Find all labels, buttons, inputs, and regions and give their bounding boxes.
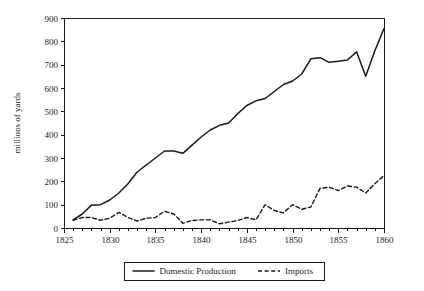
chart-container: 0100200300400500600700800900 18251830183…: [0, 0, 424, 291]
x-axis-ticks: 18251830183518401845185018551860: [56, 229, 395, 246]
series-line-imports: [73, 176, 384, 224]
x-tick-label: 1840: [193, 235, 212, 245]
y-tick-label: 100: [45, 200, 59, 210]
legend-label: Domestic Production: [160, 266, 237, 276]
series-layer: [73, 29, 384, 224]
y-tick-label: 900: [45, 14, 59, 24]
y-tick-label: 400: [45, 130, 59, 140]
y-tick-label: 700: [45, 60, 59, 70]
y-tick-label: 200: [45, 177, 59, 187]
x-tick-label: 1830: [102, 235, 121, 245]
x-tick-label: 1845: [239, 235, 258, 245]
legend-label: Imports: [285, 266, 313, 276]
y-tick-label: 0: [54, 224, 59, 234]
series-line-domestic-production: [73, 29, 384, 220]
y-axis-ticks: 0100200300400500600700800900: [45, 14, 65, 234]
y-axis-title: millions of yards: [12, 92, 22, 153]
y-tick-label: 800: [45, 37, 59, 47]
y-tick-label: 500: [45, 107, 59, 117]
x-tick-label: 1850: [285, 235, 304, 245]
x-tick-label: 1835: [147, 235, 166, 245]
chart-legend: Domestic ProductionImports: [125, 263, 325, 281]
x-tick-label: 1825: [56, 235, 75, 245]
x-tick-label: 1855: [330, 235, 349, 245]
y-tick-label: 300: [45, 154, 59, 164]
x-tick-label: 1860: [376, 235, 395, 245]
y-tick-label: 600: [45, 84, 59, 94]
line-chart: 0100200300400500600700800900 18251830183…: [0, 0, 424, 291]
